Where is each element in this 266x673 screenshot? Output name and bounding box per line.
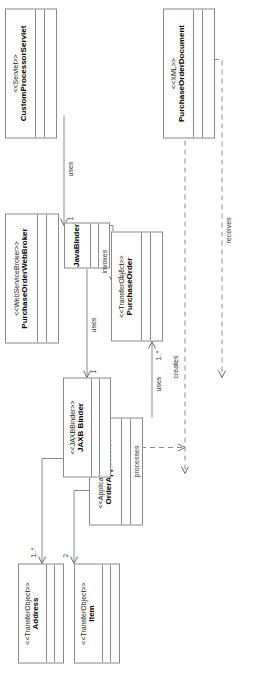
class-name-compartment: <<WebServiceBroker>> PurchaseOrderWebBro… (6, 214, 38, 342)
class-operations-compartment (111, 564, 119, 662)
class-operations-compartment (55, 564, 63, 662)
class-attributes-compartment (194, 9, 203, 137)
edge-label-processes: processes (133, 445, 140, 477)
multiplicity-purchaseorder-address: 2 (62, 553, 69, 557)
class-attributes-compartment (36, 9, 45, 137)
multiplicity-servlet-javabinder: 1 (67, 216, 74, 220)
multiplicity-orderappservice-purchaseorder: 1..* (155, 350, 162, 360)
multiplicity-webbroker-orderappservice: 1..* (117, 269, 124, 279)
uml-diagram-canvas: <<TransferObject>> Address <<TransferObj… (0, 0, 266, 673)
class-name: PurchaseOrder (126, 257, 135, 315)
class-box-purchase-order-document[interactable]: <<XML>> PurchaseOrderDocument (163, 8, 215, 138)
class-name-compartment: <<TransferObject>> Item (75, 564, 103, 662)
class-box-purchase-order-web-broker[interactable]: <<WebServiceBroker>> PurchaseOrderWebBro… (5, 213, 59, 343)
class-name: Address (32, 597, 41, 629)
class-attributes-compartment (38, 214, 47, 342)
class-name: PurchaseOrderWebBroker (21, 228, 30, 328)
class-name: JAXB Binder (77, 403, 86, 452)
edge-label-receives: receives (225, 217, 232, 243)
class-box-custom-processor-servlet[interactable]: <<Servlet>> CustomProcessorServlet (5, 8, 57, 138)
class-name-compartment: <<Servlet>> CustomProcessorServlet (6, 9, 36, 137)
class-attributes-compartment (47, 564, 55, 662)
class-attributes-compartment (142, 232, 151, 340)
class-name-compartment: <<TransferObject>> Address (19, 564, 47, 662)
edge-label-uses-javabinder: uses (67, 161, 74, 176)
multiplicity-purchaseorder-item: 1..* (30, 547, 37, 557)
edge-label-uses-jaxbbinder: uses (90, 317, 97, 332)
class-name: Item (88, 605, 97, 621)
class-box-item[interactable]: <<TransferObject>> Item (74, 563, 120, 663)
class-name-compartment: JavaBinder (65, 223, 91, 267)
class-box-address[interactable]: <<TransferObject>> Address (18, 563, 64, 663)
class-name: PurchaseOrderDocument (178, 25, 187, 122)
class-operations-compartment (203, 9, 214, 137)
class-box-jaxb-binder[interactable]: <<JAXBBinder>> JAXB Binder (63, 377, 111, 477)
class-name: CustomProcessorServlet (20, 25, 29, 121)
multiplicity-javabinder-jaxbbinder: 1 (90, 369, 97, 373)
class-name: JavaBinder (73, 223, 82, 266)
class-attributes-compartment (91, 223, 99, 267)
edge-label-creates: creates (172, 355, 179, 378)
class-operations-compartment (151, 232, 162, 340)
class-operations-compartment (47, 214, 58, 342)
class-attributes-compartment (103, 564, 111, 662)
class-name-compartment: <<TransferObject>> PurchaseOrder (112, 232, 142, 340)
class-attributes-compartment (122, 418, 131, 524)
class-attributes-compartment (92, 378, 100, 476)
edge-label-uses-purchaseorder: uses (155, 376, 162, 391)
class-name-compartment: <<JAXBBinder>> JAXB Binder (64, 378, 92, 476)
class-operations-compartment (100, 378, 110, 476)
class-operations-compartment (45, 9, 56, 137)
class-box-purchase-order[interactable]: <<TransferObject>> PurchaseOrder (111, 231, 163, 341)
class-name-compartment: <<XML>> PurchaseOrderDocument (164, 9, 194, 137)
edge-label-invokes: invokes (101, 249, 108, 273)
